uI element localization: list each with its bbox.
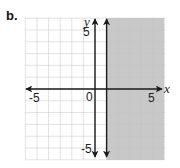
x-tick-5: 5: [148, 91, 155, 105]
x-axis-label: x: [163, 81, 170, 96]
x-tick-neg5: -5: [29, 91, 40, 105]
origin-label: 0: [86, 90, 93, 104]
y-tick-neg5: -5: [81, 142, 92, 156]
y-tick-5: 5: [83, 25, 90, 39]
coordinate-plane: y 5 x -5 0 5 -5: [0, 0, 180, 168]
